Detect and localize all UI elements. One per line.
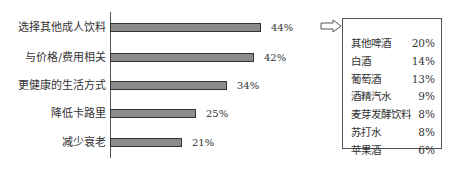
category-label: 与价格/费用相关: [0, 52, 106, 64]
value-label: 21%: [192, 137, 214, 149]
table-row: 酒精汽水9%: [351, 88, 435, 104]
value-label: 34%: [237, 80, 259, 92]
drink-name: 其他啤酒: [351, 35, 391, 51]
drink-name: 苏打水: [351, 124, 381, 140]
drink-share: 9%: [418, 88, 435, 104]
drink-share: 8%: [418, 106, 435, 122]
table-row: 苏打水8%: [351, 124, 435, 140]
drink-share: 6%: [418, 142, 435, 158]
bar: [110, 23, 261, 32]
category-label: 更健康的生活方式: [0, 80, 106, 92]
category-label: 降低卡路里: [0, 108, 106, 120]
bar: [110, 53, 254, 62]
category-label: 减少衰老: [0, 137, 106, 149]
drink-name: 酒精汽水: [351, 88, 391, 104]
drink-name: 白酒: [351, 53, 371, 69]
drink-name: 麦芽发酵饮料: [351, 106, 411, 122]
value-label: 25%: [206, 108, 228, 120]
category-label: 选择其他成人饮料: [0, 22, 106, 34]
drink-name: 苹果酒: [351, 142, 381, 158]
chart: 选择其他成人饮料44%与价格/费用相关42%更健康的生活方式34%降低卡路里25…: [0, 0, 458, 169]
value-label: 44%: [271, 22, 293, 34]
table-row: 其他啤酒20%: [351, 35, 435, 51]
breakdown-table: 其他啤酒20%白酒14%葡萄酒13%酒精汽水9%麦芽发酵饮料8%苏打水8%苹果酒…: [342, 18, 442, 149]
drink-share: 13%: [412, 71, 435, 87]
value-label: 42%: [264, 52, 286, 64]
arrow-right-icon: [320, 19, 342, 33]
bar: [110, 138, 182, 147]
table-row: 葡萄酒13%: [351, 71, 435, 87]
table-row: 白酒14%: [351, 53, 435, 69]
bar: [110, 109, 196, 118]
table-row: 苹果酒6%: [351, 142, 435, 158]
drink-share: 14%: [412, 53, 435, 69]
table-row: 麦芽发酵饮料8%: [351, 106, 435, 122]
drink-share: 20%: [412, 35, 435, 51]
drink-share: 8%: [418, 124, 435, 140]
bar: [110, 81, 227, 90]
drink-name: 葡萄酒: [351, 71, 381, 87]
